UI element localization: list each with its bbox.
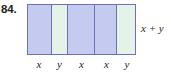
total-length-label: x + y [141,22,164,34]
segment-label-2: y [51,56,68,72]
bar-segment-2 [52,5,69,54]
bar-segment-1 [28,5,52,54]
bar-segment-5 [117,5,135,54]
bar-segment-3 [68,5,95,54]
segment-label-4: x [95,56,118,72]
segment-label-1: x [27,56,51,72]
segmented-bar-diagram [27,4,136,55]
segment-label-3: x [68,56,95,72]
exercise-number: 84. [1,3,16,16]
bar-segment-labels: x y x x y [27,56,136,72]
figure-page: 84. x y x x y x + y [0,0,171,74]
bar-segment-4 [95,5,118,54]
segment-label-5: y [118,56,136,72]
